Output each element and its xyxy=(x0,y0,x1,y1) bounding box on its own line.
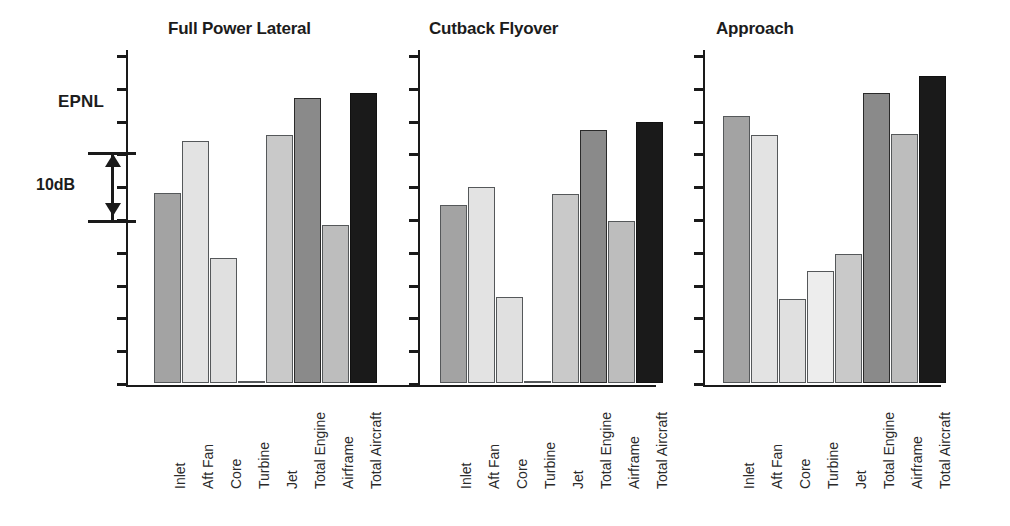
y-axis-tick xyxy=(694,285,705,288)
bar-aft-fan xyxy=(751,135,778,383)
y-axis-line xyxy=(418,50,420,385)
y-axis-tick xyxy=(409,186,420,189)
y-axis-line xyxy=(703,50,705,385)
y-axis-tick xyxy=(409,285,420,288)
x-axis-line xyxy=(703,385,941,387)
bar-core xyxy=(779,299,806,383)
y-axis-tick xyxy=(117,88,128,91)
x-axis-label-total-engine: Total Engine xyxy=(313,412,327,489)
y-axis-tick xyxy=(694,186,705,189)
figure-epnl-noise-component-bar-charts: EPNL 10dB Full Power Lateral Cutback Fly… xyxy=(0,0,1010,526)
bar-turbine xyxy=(238,381,265,383)
y-axis-tick xyxy=(117,383,128,386)
y-axis-line xyxy=(126,50,128,385)
bar-airframe xyxy=(891,134,918,383)
panel-title: Approach xyxy=(716,19,794,39)
y-axis-tick xyxy=(694,219,705,222)
bar-turbine xyxy=(807,271,834,383)
y-axis-tick xyxy=(409,121,420,124)
x-axis-label-core: Core xyxy=(798,459,812,489)
y-axis-tick xyxy=(409,383,420,386)
bar-inlet xyxy=(723,116,750,383)
y-axis-tick xyxy=(409,317,420,320)
y-axis-tick xyxy=(694,383,705,386)
bar-inlet xyxy=(440,205,467,383)
y-axis-tick xyxy=(117,186,128,189)
bar-total-aircraft xyxy=(919,76,946,383)
bar-aft-fan xyxy=(182,141,209,383)
x-axis-label-inlet: Inlet xyxy=(173,463,187,489)
y-axis-tick xyxy=(409,219,420,222)
y-axis-tick xyxy=(694,350,705,353)
x-axis-label-inlet: Inlet xyxy=(742,463,756,489)
x-axis-label-airframe: Airframe xyxy=(341,436,355,489)
x-axis-label-turbine: Turbine xyxy=(543,442,557,489)
y-axis-tick xyxy=(409,153,420,156)
panel-title: Cutback Flyover xyxy=(429,19,558,39)
y-axis-tick xyxy=(694,88,705,91)
y-axis-tick xyxy=(694,55,705,58)
x-axis-label-turbine: Turbine xyxy=(826,442,840,489)
x-axis-label-total-engine: Total Engine xyxy=(882,412,896,489)
y-axis-tick xyxy=(694,317,705,320)
y-axis-tick xyxy=(409,252,420,255)
y-axis-tick xyxy=(117,317,128,320)
y-axis-tick xyxy=(117,219,128,222)
bar-turbine xyxy=(524,381,551,383)
x-axis-label-core: Core xyxy=(229,459,243,489)
x-axis-label-total-aircraft: Total Aircraft xyxy=(938,412,952,489)
y-axis-tick xyxy=(117,350,128,353)
bar-core xyxy=(496,297,523,383)
panel-title: Full Power Lateral xyxy=(168,19,311,39)
x-axis-label-airframe: Airframe xyxy=(910,436,924,489)
bar-jet xyxy=(266,135,293,383)
y-axis-tick xyxy=(409,88,420,91)
bar-total-engine xyxy=(580,130,607,383)
x-axis-label-total-engine: Total Engine xyxy=(599,412,613,489)
x-axis-label-airframe: Airframe xyxy=(627,436,641,489)
x-axis-label-total-aircraft: Total Aircraft xyxy=(655,412,669,489)
y-axis-tick xyxy=(694,153,705,156)
bar-total-engine xyxy=(294,98,321,383)
y-axis-tick xyxy=(409,55,420,58)
x-axis-label-jet: Jet xyxy=(285,470,299,489)
x-axis-label-total-aircraft: Total Aircraft xyxy=(369,412,383,489)
x-axis-label-aft-fan: Aft Fan xyxy=(487,444,501,489)
x-axis-label-jet: Jet xyxy=(571,470,585,489)
x-axis-label-jet: Jet xyxy=(854,470,868,489)
bar-jet xyxy=(835,254,862,383)
y-axis-tick xyxy=(117,153,128,156)
bar-inlet xyxy=(154,193,181,383)
x-axis-line xyxy=(418,385,656,387)
bar-core xyxy=(210,258,237,383)
x-axis-label-inlet: Inlet xyxy=(459,463,473,489)
x-axis-label-aft-fan: Aft Fan xyxy=(770,444,784,489)
x-axis-label-turbine: Turbine xyxy=(257,442,271,489)
bar-jet xyxy=(552,194,579,383)
y-axis-tick xyxy=(117,121,128,124)
y-axis-tick xyxy=(694,252,705,255)
x-axis-label-aft-fan: Aft Fan xyxy=(201,444,215,489)
bar-total-aircraft xyxy=(636,122,663,383)
y-axis-tick xyxy=(117,285,128,288)
y-axis-tick xyxy=(409,350,420,353)
y-axis-tick xyxy=(694,121,705,124)
bar-aft-fan xyxy=(468,187,495,383)
bar-airframe xyxy=(322,225,349,383)
y-axis-tick xyxy=(117,252,128,255)
x-axis-label-core: Core xyxy=(515,459,529,489)
bar-total-aircraft xyxy=(350,93,377,383)
bar-total-engine xyxy=(863,93,890,383)
y-axis-tick xyxy=(117,55,128,58)
bar-airframe xyxy=(608,221,635,383)
